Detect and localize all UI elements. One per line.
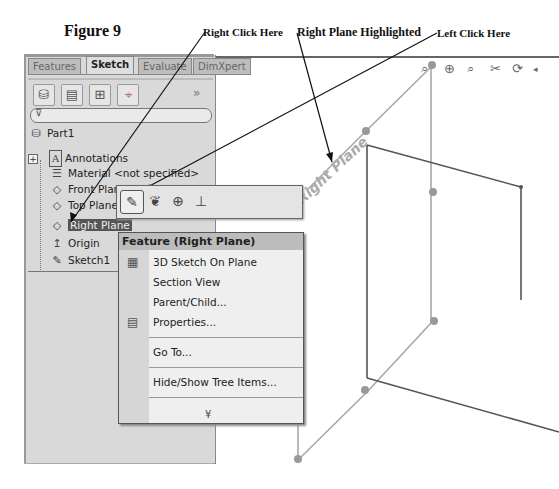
right-plane-label: Right Plane (293, 133, 371, 207)
panel-bottom-border (24, 463, 214, 464)
sketch-icon: ✎ (126, 194, 138, 210)
zoom-to-selection-button[interactable]: ⊕ (167, 190, 189, 212)
properties-icon: ▤ (127, 315, 138, 329)
menu-header: Feature (Right Plane) (119, 233, 303, 250)
normal-to-icon: ⊥ (195, 193, 207, 209)
menu-item-section-view[interactable]: Section View (153, 276, 220, 288)
plane-handles (294, 61, 523, 463)
menu-item-parent-child[interactable]: Parent/Child... (153, 296, 227, 308)
menu-item-properties[interactable]: Properties... (153, 316, 216, 328)
front-plane-outline (367, 145, 559, 432)
menu-separator (149, 337, 303, 338)
normal-to-button[interactable]: ⊥ (190, 190, 212, 212)
menu-separator (149, 367, 303, 368)
3d-sketch-icon: ▦ (127, 255, 138, 269)
menu-item-3d-sketch-on-plane[interactable]: 3D Sketch On Plane (153, 256, 257, 268)
relations-icon: ❦ (149, 193, 161, 209)
expand-menu-icon[interactable]: ¥ (205, 409, 211, 420)
menu-separator (149, 397, 303, 398)
menu-icon-gutter (119, 250, 149, 423)
menu-item-go-to[interactable]: Go To... (153, 346, 192, 358)
right-plane-outline (298, 67, 431, 460)
context-toolbar: ✎ ❦ ⊕ ⊥ (116, 185, 303, 219)
view-sketch-relations-button[interactable]: ❦ (144, 190, 166, 212)
context-menu: Feature (Right Plane) ▦ 3D Sketch On Pla… (118, 232, 304, 424)
menu-item-hide-show-tree-items[interactable]: Hide/Show Tree Items... (153, 376, 277, 388)
sketch-button[interactable]: ✎ (120, 190, 144, 214)
zoom-icon: ⊕ (172, 193, 184, 209)
